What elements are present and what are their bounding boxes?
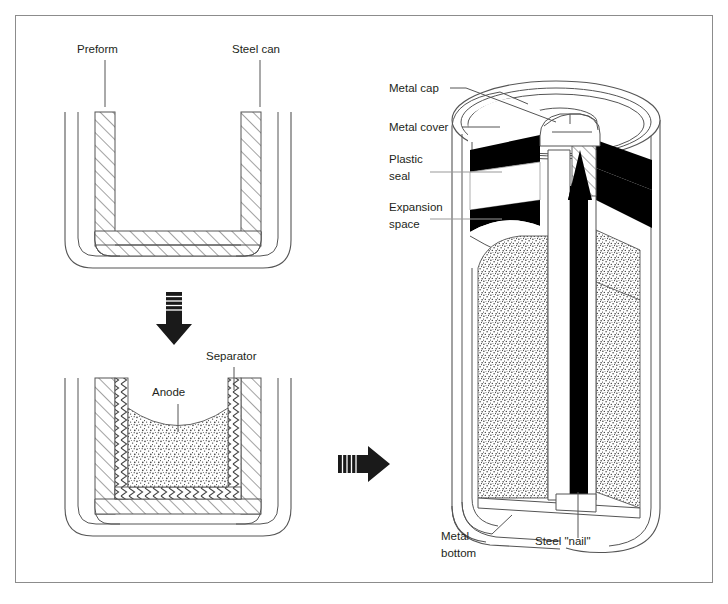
separator-left — [115, 378, 128, 499]
battery-manufacturing-diagram: Preform Steel can Anode — [0, 0, 728, 604]
label-metal-bottom-2: bottom — [441, 547, 476, 559]
label-steel-can: Steel can — [232, 43, 280, 55]
separator-right — [228, 378, 241, 499]
nail-foot — [556, 494, 596, 512]
label-anode: Anode — [152, 386, 185, 398]
stage2-preform-left — [95, 378, 115, 514]
label-metal-cover: Metal cover — [389, 121, 449, 133]
label-plastic-seal-1: Plastic — [389, 153, 423, 165]
anode-left-column — [478, 236, 548, 498]
steel-nail-shaft — [570, 196, 588, 496]
stage2-preform-bottom — [95, 499, 261, 514]
preform-wall-right — [241, 112, 261, 246]
figure-canvas: Preform Steel can Anode — [0, 0, 728, 604]
label-expansion-space-1: Expansion — [389, 201, 443, 213]
preform-wall-left — [95, 112, 115, 246]
label-plastic-seal-2: seal — [389, 170, 410, 182]
label-steel-nail: Steel "nail" — [535, 535, 590, 547]
preform-bottom-block — [95, 231, 261, 245]
label-metal-bottom-1: Metal — [441, 530, 469, 542]
stage2-preform-right — [241, 378, 261, 514]
label-expansion-space-2: space — [389, 218, 420, 230]
label-preform: Preform — [77, 43, 118, 55]
separator-bottom — [115, 487, 241, 499]
separator-sleeve-left — [548, 150, 570, 500]
label-metal-cap: Metal cap — [389, 82, 439, 94]
label-separator: Separator — [206, 350, 257, 362]
anode-right-column — [596, 230, 640, 508]
